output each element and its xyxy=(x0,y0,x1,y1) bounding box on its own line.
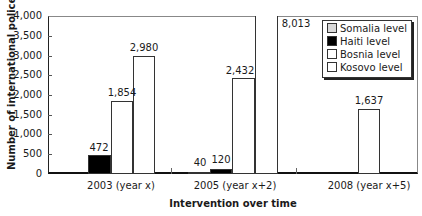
legend-item-haiti: Haiti level xyxy=(327,36,390,48)
legend-swatch-kosovo xyxy=(327,62,337,72)
y-tick-label-500: 500 xyxy=(4,149,42,159)
y-tick-label-1000: 1,000 xyxy=(4,129,42,139)
legend-label-haiti: Haiti level xyxy=(340,36,390,47)
y-tick xyxy=(48,115,52,116)
category-separator xyxy=(296,168,297,174)
x-category-label-2005: 2005 (year x+2) xyxy=(180,180,290,191)
value-label-kosovo-2008: 1,637 xyxy=(349,96,389,106)
y-tick-label-0: 0 xyxy=(4,169,42,179)
bar-haiti-2005 xyxy=(210,169,232,174)
y-tick-label-3000: 3,000 xyxy=(4,51,42,61)
value-label-haiti-2005: 120 xyxy=(201,155,241,165)
y-tick-label-2000: 2,000 xyxy=(4,90,42,100)
bar-haiti-2003 xyxy=(88,155,111,174)
value-label-haiti-2003: 472 xyxy=(79,143,119,153)
legend-swatch-haiti xyxy=(327,36,337,46)
y-tick xyxy=(48,134,52,135)
y-tick-label-1500: 1,500 xyxy=(4,110,42,120)
y-tick xyxy=(48,154,52,155)
value-label-kosovo-2005: 8,013 xyxy=(276,19,316,29)
value-label-bosnia-2003: 1,854 xyxy=(102,88,142,98)
x-category-label-2008: 2008 (year x+5) xyxy=(314,180,422,191)
legend-label-bosnia: Bosnia level xyxy=(340,49,400,60)
category-separator xyxy=(171,168,172,174)
x-category-label-2003: 2003 (year x) xyxy=(66,180,176,191)
legend-item-bosnia: Bosnia level xyxy=(327,49,400,61)
legend-item-kosovo: Kosovo level xyxy=(327,62,403,74)
bar-kosovo-2003 xyxy=(133,56,155,174)
legend-swatch-bosnia xyxy=(327,49,337,59)
y-tick-label-3500: 3,500 xyxy=(4,31,42,41)
bar-bosnia-2003 xyxy=(111,101,133,174)
value-label-kosovo-2003: 2,980 xyxy=(124,43,164,53)
bar-kosovo-2005 xyxy=(255,16,278,174)
x-axis-title: Intervention over time xyxy=(48,198,418,209)
legend-swatch-somalia xyxy=(327,23,337,33)
legend-label-kosovo: Kosovo level xyxy=(340,62,403,73)
legend-item-somalia: Somalia level xyxy=(327,23,407,35)
bar-somalia-2005 xyxy=(188,172,210,174)
y-tick xyxy=(48,36,52,37)
legend: Somalia level Haiti level Bosnia level K… xyxy=(322,20,412,78)
value-label-bosnia-2005: 2,432 xyxy=(220,66,260,76)
legend-label-somalia: Somalia level xyxy=(340,23,407,34)
y-tick xyxy=(48,56,52,57)
bar-kosovo-2008 xyxy=(358,109,380,174)
y-tick xyxy=(48,95,52,96)
y-tick-label-4000: 4,000 xyxy=(4,11,42,21)
y-tick-label-2500: 2,500 xyxy=(4,70,42,80)
y-tick xyxy=(48,75,52,76)
